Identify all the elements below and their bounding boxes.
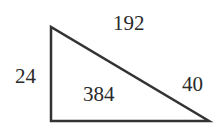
label-hypotenuse: 40 [182,74,203,95]
label-top: 192 [113,13,145,34]
label-left-side: 24 [15,66,36,87]
label-area: 384 [83,84,115,105]
